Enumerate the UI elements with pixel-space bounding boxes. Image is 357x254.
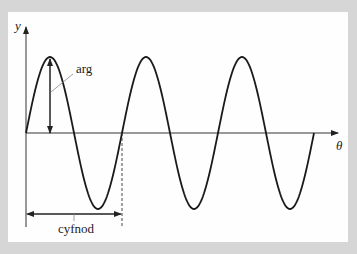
x-axis-label: θ — [336, 138, 342, 154]
y-axis-label: y — [15, 18, 21, 34]
amplitude-label: arg — [76, 61, 92, 77]
period-label: cyfnod — [58, 221, 94, 237]
sine-diagram — [0, 0, 357, 254]
